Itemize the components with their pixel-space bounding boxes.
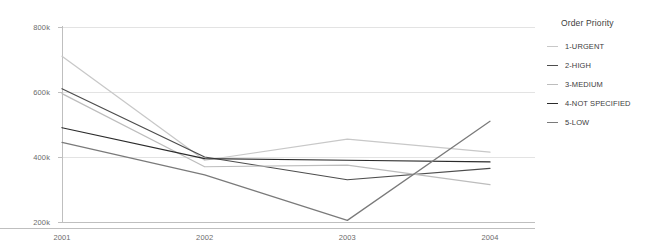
- series-line[interactable]: [62, 121, 490, 220]
- legend-item[interactable]: 5-LOW: [547, 113, 664, 132]
- x-axis-tick-label: 2004: [460, 233, 520, 242]
- y-axis-tick-label: 600k: [8, 88, 50, 97]
- x-axis-tick-label: 2003: [317, 233, 377, 242]
- y-axis-tick-label: 200k: [8, 218, 50, 227]
- legend-item-label: 3-MEDIUM: [565, 80, 603, 89]
- legend-color-swatch-icon: [547, 84, 558, 85]
- legend-item-label: 1-URGENT: [565, 42, 604, 51]
- legend-item[interactable]: 1-URGENT: [547, 37, 664, 56]
- x-axis-tick-label: 2002: [175, 233, 235, 242]
- legend-color-swatch-icon: [547, 46, 558, 47]
- legend-item-list: 1-URGENT2-HIGH3-MEDIUM4-NOT SPECIFIED5-L…: [547, 37, 664, 132]
- y-axis-tick-label: 400k: [8, 153, 50, 162]
- legend: Order Priority 1-URGENT2-HIGH3-MEDIUM4-N…: [535, 0, 664, 252]
- gridlines: [62, 27, 535, 222]
- line-chart: 800k600k400k200k 2001200220032004 Order …: [0, 0, 664, 252]
- legend-item-label: 4-NOT SPECIFIED: [565, 99, 631, 108]
- data-series-group: [62, 56, 490, 220]
- legend-color-swatch-icon: [547, 65, 558, 66]
- legend-item[interactable]: 3-MEDIUM: [547, 75, 664, 94]
- axis-lines: [0, 26, 535, 229]
- y-axis-tick-label: 800k: [8, 23, 50, 32]
- x-axis-tick-label: 2001: [32, 233, 92, 242]
- series-line[interactable]: [62, 56, 490, 160]
- legend-item-label: 5-LOW: [565, 118, 589, 127]
- legend-item[interactable]: 4-NOT SPECIFIED: [547, 94, 664, 113]
- legend-item[interactable]: 2-HIGH: [547, 56, 664, 75]
- legend-color-swatch-icon: [547, 122, 558, 123]
- plot-area: 800k600k400k200k 2001200220032004: [0, 0, 535, 252]
- series-line[interactable]: [62, 94, 490, 185]
- legend-color-swatch-icon: [547, 103, 558, 104]
- chart-canvas: [0, 0, 535, 252]
- legend-item-label: 2-HIGH: [565, 61, 591, 70]
- legend-title: Order Priority: [561, 18, 664, 28]
